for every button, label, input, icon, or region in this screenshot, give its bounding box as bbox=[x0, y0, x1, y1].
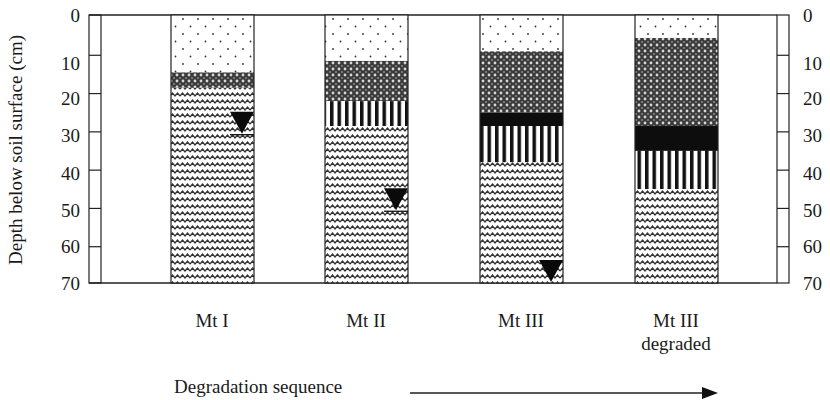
soil-layer-dots bbox=[635, 15, 718, 38]
tick-label: 0 bbox=[71, 5, 81, 26]
soil-layer-crosshatch bbox=[325, 61, 408, 101]
column-label-mt-iii-degraded: Mt III bbox=[653, 310, 699, 331]
right-tick-labels: 0 10 20 30 40 50 60 70 bbox=[803, 5, 822, 294]
degradation-arrow-icon bbox=[410, 387, 718, 399]
soil-layer-black bbox=[480, 113, 563, 126]
tick-label: 40 bbox=[61, 163, 80, 184]
column-label-mt-ii: Mt II bbox=[346, 310, 386, 331]
tick-label: 50 bbox=[61, 200, 80, 221]
soil-layer-dots bbox=[171, 15, 254, 72]
column-labels: Mt I Mt II Mt III Mt III degraded bbox=[195, 310, 711, 354]
soil-layer-stripes bbox=[480, 126, 563, 162]
soil-layer-dots bbox=[325, 15, 408, 61]
soil-column-mt-iii bbox=[480, 15, 563, 283]
soil-layer-crosshatch bbox=[635, 38, 718, 126]
soil-layer-crosshatch bbox=[171, 72, 254, 87]
tick-label: 20 bbox=[61, 88, 80, 109]
column-label-mt-iii: Mt III bbox=[498, 310, 544, 331]
left-depth-scale bbox=[89, 15, 101, 283]
tick-label: 10 bbox=[61, 53, 80, 74]
soil-column-mt-ii bbox=[325, 15, 408, 283]
tick-label: 70 bbox=[61, 273, 80, 294]
y-axis-label: Depth below soil surface (cm) bbox=[5, 35, 27, 265]
soil-layer-black bbox=[635, 126, 718, 151]
right-depth-scale bbox=[760, 15, 789, 283]
tick-label: 20 bbox=[803, 88, 822, 109]
soil-layer-wavy bbox=[635, 189, 718, 283]
soil-layer-stripes bbox=[635, 151, 718, 189]
tick-label: 60 bbox=[61, 236, 80, 257]
column-label-mt-iii-degraded-line2: degraded bbox=[641, 333, 711, 354]
tick-label: 60 bbox=[803, 236, 822, 257]
tick-label: 10 bbox=[803, 53, 822, 74]
tick-label: 30 bbox=[803, 125, 822, 146]
tick-label: 50 bbox=[803, 200, 822, 221]
soil-layer-dots bbox=[480, 15, 563, 51]
soil-layer-stripes bbox=[325, 101, 408, 126]
tick-label: 0 bbox=[803, 5, 813, 26]
left-tick-labels: 0 10 20 30 40 50 60 70 bbox=[61, 5, 80, 294]
soil-profile-diagram: Depth below soil surface (cm) 0 10 20 30… bbox=[0, 0, 830, 400]
soil-column-mt-i bbox=[171, 15, 254, 283]
soil-profile-columns bbox=[171, 15, 718, 283]
tick-label: 30 bbox=[61, 125, 80, 146]
soil-layer-crosshatch bbox=[480, 51, 563, 112]
tick-label: 70 bbox=[803, 273, 822, 294]
column-label-mt-i: Mt I bbox=[195, 310, 228, 331]
soil-column-mt-iii-degraded bbox=[635, 15, 718, 283]
tick-label: 40 bbox=[803, 163, 822, 184]
x-axis-label: Degradation sequence bbox=[174, 376, 342, 397]
